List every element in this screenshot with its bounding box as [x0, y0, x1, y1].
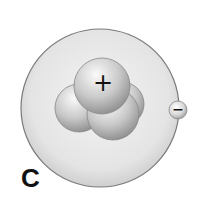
- atom-diagram: + − C: [0, 0, 199, 203]
- electron-charge-symbol: −: [170, 101, 186, 117]
- proton-charge-symbol: +: [92, 71, 114, 95]
- panel-label: C: [21, 165, 40, 191]
